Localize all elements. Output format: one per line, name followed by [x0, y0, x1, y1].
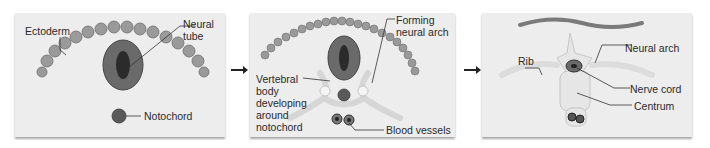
rib-right: [592, 64, 652, 75]
notochord: [112, 109, 126, 123]
label-centrum: Centrum: [634, 100, 674, 112]
label-rib: Rib: [518, 55, 534, 67]
label-neural-tube: Neural tube: [183, 18, 214, 42]
label-vertebral-body: Vertebral body developing around notocho…: [256, 73, 307, 133]
centrum: [560, 71, 590, 111]
arrow-icon: [231, 69, 245, 71]
label-blood-vessels: Blood vessels: [386, 124, 451, 136]
label-ectoderm: Ectoderm: [25, 25, 70, 37]
panel-stage-1: Ectoderm Neural tube Notochord: [15, 13, 225, 137]
panel-stage-2: Forming neural arch Vertebral body devel…: [250, 13, 455, 137]
dorsal-surface: [520, 19, 642, 27]
label-notochord: Notochord: [144, 110, 192, 122]
stage-3-illustration: [482, 13, 692, 137]
label-neural-arch: Neural arch: [625, 42, 679, 54]
panel-stage-3: Rib Neural arch Nerve cord Centrum: [482, 13, 692, 137]
label-nerve-cord: Nerve cord: [630, 83, 681, 95]
arrow-icon: [464, 69, 478, 71]
notochord: [338, 89, 350, 101]
label-forming-neural-arch: Forming neural arch: [396, 14, 449, 38]
